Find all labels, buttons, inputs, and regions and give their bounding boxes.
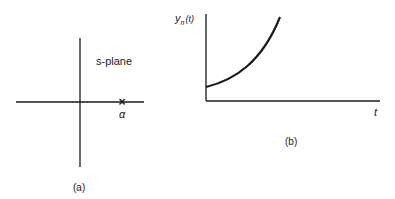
x-axis-label: t bbox=[374, 106, 378, 118]
caption-b: (b) bbox=[285, 136, 297, 147]
y-label-arg: (t) bbox=[185, 14, 194, 24]
figure-canvas: s-plane × α (a) yn(t) t (b) bbox=[0, 0, 395, 199]
caption-a: (a) bbox=[73, 182, 85, 193]
s-plane-label: s-plane bbox=[96, 55, 132, 67]
pole-label: α bbox=[119, 108, 126, 120]
s-plane-diagram: s-plane × α (a) bbox=[16, 38, 144, 193]
pole-marker-icon: × bbox=[119, 95, 126, 109]
time-response-plot: yn(t) t (b) bbox=[174, 12, 380, 147]
y-axis-label: yn(t) bbox=[174, 12, 194, 26]
y-label-sub: n bbox=[181, 19, 185, 26]
exponential-curve bbox=[206, 17, 280, 87]
